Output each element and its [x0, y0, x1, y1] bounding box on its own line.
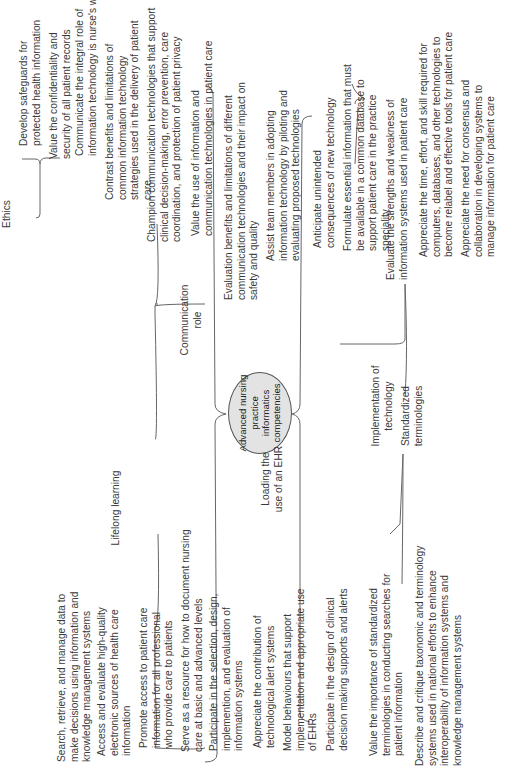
communication-item: Value the use of information and communi…	[190, 36, 215, 236]
standardized-item: Describe and critique taxonomic and term…	[414, 526, 464, 766]
lifelong-item: Search, retrieve, and manage data to mak…	[56, 572, 94, 762]
implementation-item: Appreciate the time, effort, and skill r…	[418, 2, 456, 257]
center-node-label: Advanced nursing practice informatics co…	[237, 373, 283, 453]
branch-label-implementation: Implementation of technology	[370, 346, 395, 466]
standardized-item: Value the importance of standardized ter…	[368, 566, 406, 756]
ehr-item: Appreciate the contribution of technolog…	[252, 578, 277, 748]
implementation-item: Evaluate the strengths and weakness of i…	[385, 80, 410, 280]
ethics-item: Value the confidentiality and security o…	[48, 0, 73, 159]
implementation-item: Assist team members in adopting informat…	[265, 61, 303, 261]
branch-label-ehr: Loading the use of an EHR	[260, 444, 285, 514]
ehr-item: Model behaviours that support implementa…	[282, 586, 320, 751]
implementation-item: Anticipate unintended consequences of ne…	[312, 88, 337, 248]
lifelong-item: Access and evaluate high-quality electro…	[96, 586, 134, 756]
lifelong-item: Promote access to patient care informati…	[138, 598, 176, 748]
communication-item: Evaluation benefits and limitations of d…	[223, 60, 261, 300]
branch-label-communication: Communication role	[179, 280, 204, 360]
communication-item: Communicate the integral role of informa…	[74, 0, 99, 156]
center-node: Advanced nursing practice informatics co…	[228, 372, 292, 454]
ehr-item: Participate in the design of clinical de…	[325, 581, 350, 751]
branch-label-lifelong-learning: Lifelong learning	[110, 458, 123, 558]
ehr-item: Participate in the selection, design, im…	[208, 571, 246, 751]
branch-label-ethics: Ethics	[1, 194, 14, 234]
implementation-item: Appreciate the need for consensus and co…	[460, 67, 498, 257]
ethics-item: Develop safeguards for protected health …	[18, 1, 43, 146]
communication-item: Champion communication technologies that…	[146, 0, 184, 242]
mind-map-diagram: Advanced nursing practice informatics co…	[0, 0, 508, 784]
lifelong-item: Serve as a resource for how to document …	[180, 522, 205, 752]
branch-label-standardized: Standardized terminologies	[400, 366, 425, 466]
